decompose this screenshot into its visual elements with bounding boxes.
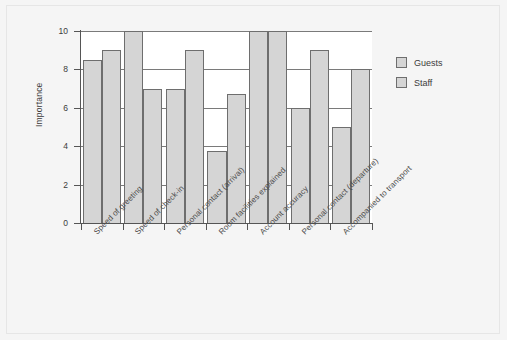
x-tick-mark [81, 224, 82, 230]
legend: GuestsStaff [396, 57, 443, 97]
x-tick-mark [289, 224, 290, 230]
bar [310, 50, 329, 223]
x-tick-mark [247, 224, 248, 230]
legend-item: Guests [396, 57, 443, 68]
legend-item: Staff [396, 77, 443, 88]
x-tick-mark [330, 224, 331, 230]
plot-area [81, 31, 372, 223]
y-tick-label: 10 [46, 26, 68, 36]
y-tick-label: 4 [46, 141, 68, 151]
bar-group [81, 31, 123, 223]
y-axis-title: Importance [34, 82, 44, 127]
bar-groups [81, 31, 372, 223]
y-axis-line [80, 30, 81, 224]
legend-label: Guests [414, 58, 443, 68]
legend-swatch [396, 77, 407, 88]
bar [83, 60, 102, 223]
bar [185, 50, 204, 223]
figure: Importance 0246810 Speed of greetingSpee… [0, 0, 507, 340]
legend-swatch [396, 57, 407, 68]
y-tick-label: 0 [46, 218, 68, 228]
bar [102, 50, 121, 223]
x-tick-mark [123, 224, 124, 230]
bar [351, 69, 370, 223]
x-tick-mark [206, 224, 207, 230]
y-tick-label: 6 [46, 103, 68, 113]
x-tick-mark [164, 224, 165, 230]
legend-label: Staff [414, 78, 432, 88]
bar [268, 31, 287, 223]
y-tick-label: 8 [46, 64, 68, 74]
x-tick-mark [372, 224, 373, 230]
bar [332, 127, 351, 223]
y-tick-label: 2 [46, 180, 68, 190]
